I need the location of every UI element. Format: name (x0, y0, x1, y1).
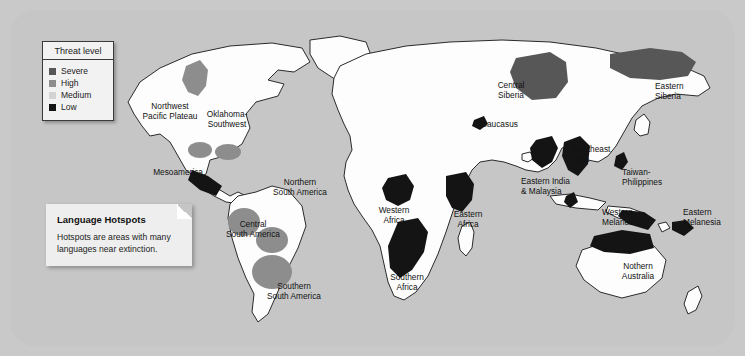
legend-item-severe[interactable]: Severe (49, 67, 108, 76)
legend-items: Severe High Medium Low (43, 60, 113, 120)
hotspot-label-southern-africa[interactable]: Southern Africa (382, 273, 432, 292)
hotspot-label-western-melanesia[interactable]: Western Melanesia (602, 208, 656, 227)
legend-label-severe: Severe (61, 67, 88, 76)
hotspot-label-southern-south-america[interactable]: Southern South America (261, 282, 327, 301)
hotspot-label-central-south-america[interactable]: Central South America (221, 220, 285, 239)
hotspot-label-eastern-india-malaysia[interactable]: Eastern India & Malaysia (521, 177, 583, 196)
caption-text: Hotspots are areas with many languages n… (57, 232, 181, 255)
legend-item-medium[interactable]: Medium (49, 91, 108, 100)
hotspot-label-oklahoma-southwest[interactable]: Oklahoma- Southwest (196, 110, 258, 129)
world-map-panel[interactable]: Threat level Severe High Medium Low (10, 10, 735, 346)
hotspot-label-eastern-africa[interactable]: Eastern Africa (444, 210, 492, 229)
legend-item-low[interactable]: Low (49, 103, 108, 112)
hotspot-label-caucasus[interactable]: Caucasus (481, 120, 531, 130)
language-hotspots-caption: Language Hotspots Hotspots are areas wit… (46, 204, 192, 266)
hotspot-label-central-siberia[interactable]: Central Siberia (488, 81, 534, 100)
legend-label-medium: Medium (61, 91, 91, 100)
hotspot-label-southeast-asia[interactable]: Southeast Asia (573, 145, 627, 164)
hotspot-label-western-africa[interactable]: Western Africa (370, 206, 418, 225)
legend-swatch-low (49, 104, 56, 111)
hotspot-label-mesoamerica[interactable]: Mesoamerica (141, 168, 203, 178)
legend-swatch-severe (49, 68, 56, 75)
caption-title: Language Hotspots (57, 214, 181, 225)
hotspot-label-taiwan-philippines[interactable]: Taiwan- Philippines (622, 168, 678, 187)
legend-swatch-medium (49, 92, 56, 99)
hotspot-label-eastern-melanesia[interactable]: Eastern Melanesia (683, 208, 735, 227)
hotspot-label-nothern-australia[interactable]: Nothern Australia (610, 262, 666, 281)
threat-level-legend: Threat level Severe High Medium Low (42, 41, 114, 121)
hotspot-label-northern-south-america[interactable]: Northern South America (268, 178, 332, 197)
hotspot-label-eastern-siberia[interactable]: Eastern Siberia (655, 82, 701, 101)
screenshot-root: Threat level Severe High Medium Low (0, 0, 745, 356)
legend-label-high: High (61, 79, 78, 88)
legend-swatch-high (49, 80, 56, 87)
legend-label-low: Low (61, 103, 77, 112)
folded-corner-icon (177, 204, 192, 219)
legend-title: Threat level (43, 42, 113, 60)
legend-item-high[interactable]: High (49, 79, 108, 88)
